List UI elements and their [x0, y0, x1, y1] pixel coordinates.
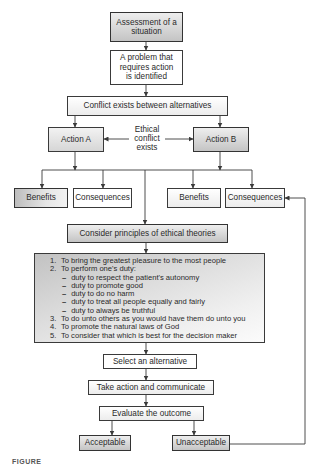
conflict-node: Conflict exists between alternatives: [67, 96, 228, 116]
consequences-b-label: Consequences: [228, 193, 283, 203]
consequences-b-node: Consequences: [225, 188, 285, 208]
select-alternative-label: Select an alternative: [113, 357, 187, 367]
benefits-b-label: Benefits: [179, 193, 209, 203]
unacceptable-label: Unacceptable: [176, 438, 226, 448]
assessment-node: Assessment of a situation: [110, 12, 183, 42]
action-a-node: Action A: [48, 127, 104, 152]
action-a-label: Action A: [61, 135, 91, 145]
principle-num: 2.: [50, 265, 59, 273]
ethical-line-1: Ethical: [128, 125, 166, 134]
benefits-b-node: Benefits: [167, 188, 221, 208]
ethical-line-3: exists: [128, 143, 166, 152]
action-b-node: Action B: [193, 127, 249, 152]
action-b-label: Action B: [206, 135, 237, 145]
principle-text: To consider that which is best for the d…: [61, 331, 237, 340]
take-action-label: Take action and communicate: [97, 383, 205, 393]
acceptable-node: Acceptable: [79, 435, 131, 451]
assessment-label: Assessment of a situation: [115, 18, 178, 37]
evaluate-outcome-label: Evaluate the outcome: [112, 409, 191, 419]
conflict-label: Conflict exists between alternatives: [84, 101, 212, 111]
consequences-a-label: Consequences: [75, 193, 130, 203]
consider-principles-node: Consider principles of ethical theories: [67, 224, 228, 243]
consider-principles-label: Consider principles of ethical theories: [79, 229, 215, 239]
principle-num: 5.: [50, 332, 59, 340]
select-alternative-node: Select an alternative: [103, 354, 197, 369]
ethical-line-2: conflict: [128, 134, 166, 143]
figure-caption-fragment: FIGURE: [12, 458, 41, 464]
problem-node: A problem that requires action is identi…: [110, 50, 183, 85]
problem-label: A problem that requires action is identi…: [117, 53, 176, 82]
principle-item-5: 5. To consider that which is best for th…: [50, 332, 264, 340]
benefits-a-label: Benefits: [26, 193, 56, 203]
ethical-conflict-label: Ethical conflict exists: [128, 125, 166, 153]
ethical-principles-list: 1. To bring the greatest pleasure to the…: [34, 253, 265, 343]
evaluate-outcome-node: Evaluate the outcome: [99, 406, 204, 421]
take-action-node: Take action and communicate: [88, 380, 214, 395]
acceptable-label: Acceptable: [85, 438, 126, 448]
consequences-a-node: Consequences: [73, 188, 132, 208]
benefits-a-node: Benefits: [14, 188, 68, 208]
unacceptable-node: Unacceptable: [172, 435, 230, 451]
